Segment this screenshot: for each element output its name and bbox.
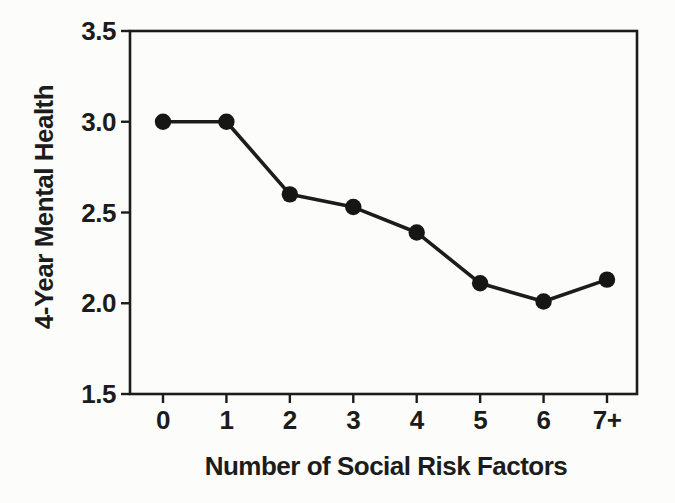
data-point <box>282 186 298 202</box>
data-line <box>163 122 607 302</box>
y-axis-tick-label: 3.5 <box>81 16 116 46</box>
line-chart: 1.52.02.53.03.501234567+ <box>0 0 675 503</box>
x-axis-tick-label: 0 <box>156 405 170 435</box>
x-axis-tick-label: 6 <box>537 405 551 435</box>
data-point <box>218 114 234 130</box>
y-axis-tick-label: 1.5 <box>81 379 116 409</box>
x-axis-tick-label: 2 <box>283 405 297 435</box>
figure-container: 4-Year Mental Health 1.52.02.53.03.50123… <box>0 0 675 503</box>
x-axis-tick-label: 7+ <box>593 405 622 435</box>
x-axis-tick-label: 1 <box>219 405 233 435</box>
plot-border <box>130 31 637 394</box>
x-axis-title: Number of Social Risk Factors <box>205 451 568 482</box>
data-point <box>409 224 425 240</box>
data-point <box>155 114 171 130</box>
data-point <box>599 271 615 287</box>
x-axis-tick-label: 5 <box>473 405 487 435</box>
y-axis-tick-label: 3.0 <box>81 107 116 137</box>
data-point <box>535 293 551 309</box>
y-axis-tick-label: 2.5 <box>81 198 116 228</box>
data-point <box>472 275 488 291</box>
data-point <box>345 199 361 215</box>
x-axis-tick-label: 4 <box>410 405 425 435</box>
y-axis-tick-label: 2.0 <box>81 288 116 318</box>
x-axis-tick-label: 3 <box>346 405 360 435</box>
